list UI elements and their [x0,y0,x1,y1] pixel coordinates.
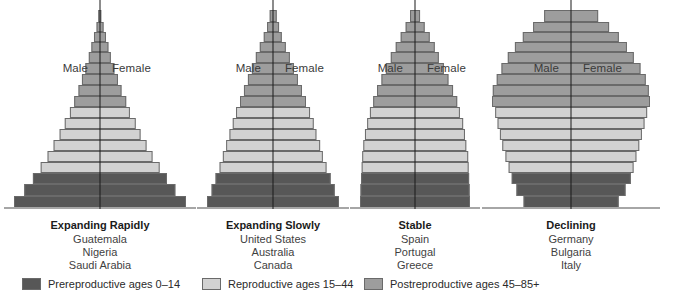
pyramid-chart-stable: MaleFemale [360,0,470,209]
female-label: Female [285,62,324,74]
pyramid-chart-declining: MaleFemale [492,0,650,209]
country-name: Greece [360,259,470,272]
male-label: Male [378,62,403,74]
country-name: Australia [207,246,339,259]
pyramid-title: Expanding Rapidly [14,219,186,233]
country-name: Canada [207,259,339,272]
country-name: Bulgaria [492,246,650,259]
legend-swatch-reproductive [202,278,221,290]
legend-label-reproductive: Reproductive ages 15–44 [228,278,353,290]
pyramid-title: Stable [360,219,470,233]
country-name: Italy [492,259,650,272]
pyramid-title: Declining [492,219,650,233]
male-label: Male [534,62,559,74]
country-name: Guatemala [14,233,186,246]
country-name: Nigeria [14,246,186,259]
legend-item-prereproductive: Prereproductive ages 0–14 [22,278,180,290]
female-label: Female [583,62,622,74]
center-axis [571,0,572,209]
pyramid-title: Expanding Slowly [207,219,339,233]
pyramid-chart-expanding-rapidly: MaleFemale [14,0,186,209]
female-label: Female [427,62,466,74]
center-axis [415,0,416,209]
legend-label-postreproductive: Postreproductive ages 45–85+ [390,278,540,290]
male-label: Male [236,62,261,74]
pyramid-caption-expanding-slowly: Expanding SlowlyUnited StatesAustraliaCa… [207,219,339,272]
country-name: Portugal [360,246,470,259]
pyramid-caption-expanding-rapidly: Expanding RapidlyGuatemalaNigeriaSaudi A… [14,219,186,272]
country-name: Saudi Arabia [14,259,186,272]
legend-label-prereproductive: Prereproductive ages 0–14 [48,278,180,290]
center-axis [273,0,274,209]
country-name: United States [207,233,339,246]
country-name: Spain [360,233,470,246]
male-label: Male [63,62,88,74]
legend-item-postreproductive: Postreproductive ages 45–85+ [364,278,540,290]
pyramid-panel-expanding-rapidly: MaleFemaleExpanding RapidlyGuatemalaNige… [14,0,186,272]
figure-legend: Prereproductive ages 0–14Reproductive ag… [0,278,673,300]
legend-swatch-prereproductive [22,278,41,290]
pyramid-chart-expanding-slowly: MaleFemale [207,0,339,209]
legend-item-reproductive: Reproductive ages 15–44 [202,278,353,290]
pyramid-panel-stable: MaleFemaleStableSpainPortugalGreece [360,0,470,272]
legend-swatch-postreproductive [364,278,383,290]
pyramid-panel-expanding-slowly: MaleFemaleExpanding SlowlyUnited StatesA… [207,0,339,272]
population-pyramid-figure: MaleFemaleExpanding RapidlyGuatemalaNige… [0,0,673,304]
pyramid-caption-declining: DecliningGermanyBulgariaItaly [492,219,650,272]
female-label: Female [112,62,151,74]
pyramid-caption-stable: StableSpainPortugalGreece [360,219,470,272]
center-axis [100,0,101,209]
country-name: Germany [492,233,650,246]
pyramid-panel-declining: MaleFemaleDecliningGermanyBulgariaItaly [492,0,650,272]
